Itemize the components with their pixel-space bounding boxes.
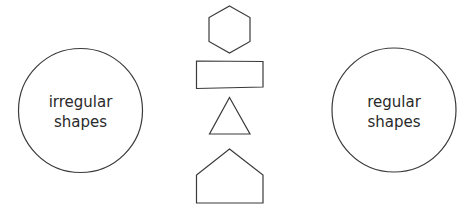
- pentagon-shape[interactable]: [197, 149, 264, 203]
- irregular-label-line2: shapes: [26, 112, 136, 132]
- regular-shapes-label: regular shapes: [339, 92, 449, 132]
- rectangle-shape[interactable]: [197, 61, 264, 89]
- regular-label-line2: shapes: [339, 112, 449, 132]
- irregular-shapes-label: irregular shapes: [26, 92, 136, 132]
- regular-label-line1: regular: [339, 92, 449, 112]
- triangle-shape[interactable]: [210, 98, 251, 135]
- hexagon-shape[interactable]: [209, 6, 250, 53]
- irregular-label-line1: irregular: [26, 92, 136, 112]
